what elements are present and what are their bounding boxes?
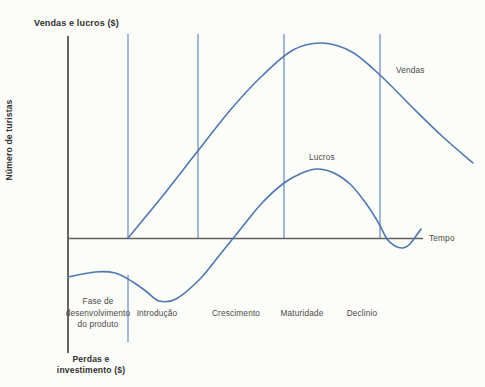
chart-title: Vendas e lucros ($) xyxy=(34,18,119,30)
losses-investment-label: Perdas e investimento ($) xyxy=(44,354,138,376)
profits-curve-label: Lucros xyxy=(309,152,335,164)
x-axis-label: Tempo xyxy=(429,233,455,245)
y-axis-label: Número de turistas xyxy=(4,99,16,180)
phase-label-introduction: Introdução xyxy=(119,308,195,320)
sales-curve-label: Vendas xyxy=(396,65,425,77)
phase-label-growth: Crescimento xyxy=(198,308,274,320)
product-lifecycle-figure: Vendas e lucros ($) Número de turistas V… xyxy=(0,0,485,387)
phase-label-decline: Declinio xyxy=(324,308,400,320)
